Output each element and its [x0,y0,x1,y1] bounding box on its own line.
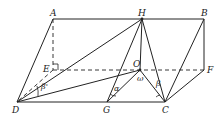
label-B: B [200,8,208,18]
geometry-diagram: A H B E O F D G C β' α ω β [0,0,222,120]
label-F: F [206,65,214,75]
label-E: E [42,64,50,74]
angle-label-omega: ω [137,74,144,83]
vertex-H-dot [141,18,144,21]
label-H: H [137,8,146,18]
edge-FC [165,70,204,102]
angle-arc-beta [156,95,160,97]
label-O: O [133,59,141,69]
vertex-O-dot [139,69,142,72]
angle-label-alpha: α [114,84,120,93]
angle-label-beta: β [155,79,161,88]
label-C: C [162,105,169,115]
edge-BC [165,19,204,102]
edge-HC [142,19,165,102]
edge-HD [17,19,142,102]
angle-label-beta-prime: β' [40,82,48,91]
edge-OC [140,70,165,102]
label-G: G [103,105,110,115]
right-angle-marker-E [53,64,58,70]
label-D: D [11,105,19,115]
label-A: A [49,8,57,18]
